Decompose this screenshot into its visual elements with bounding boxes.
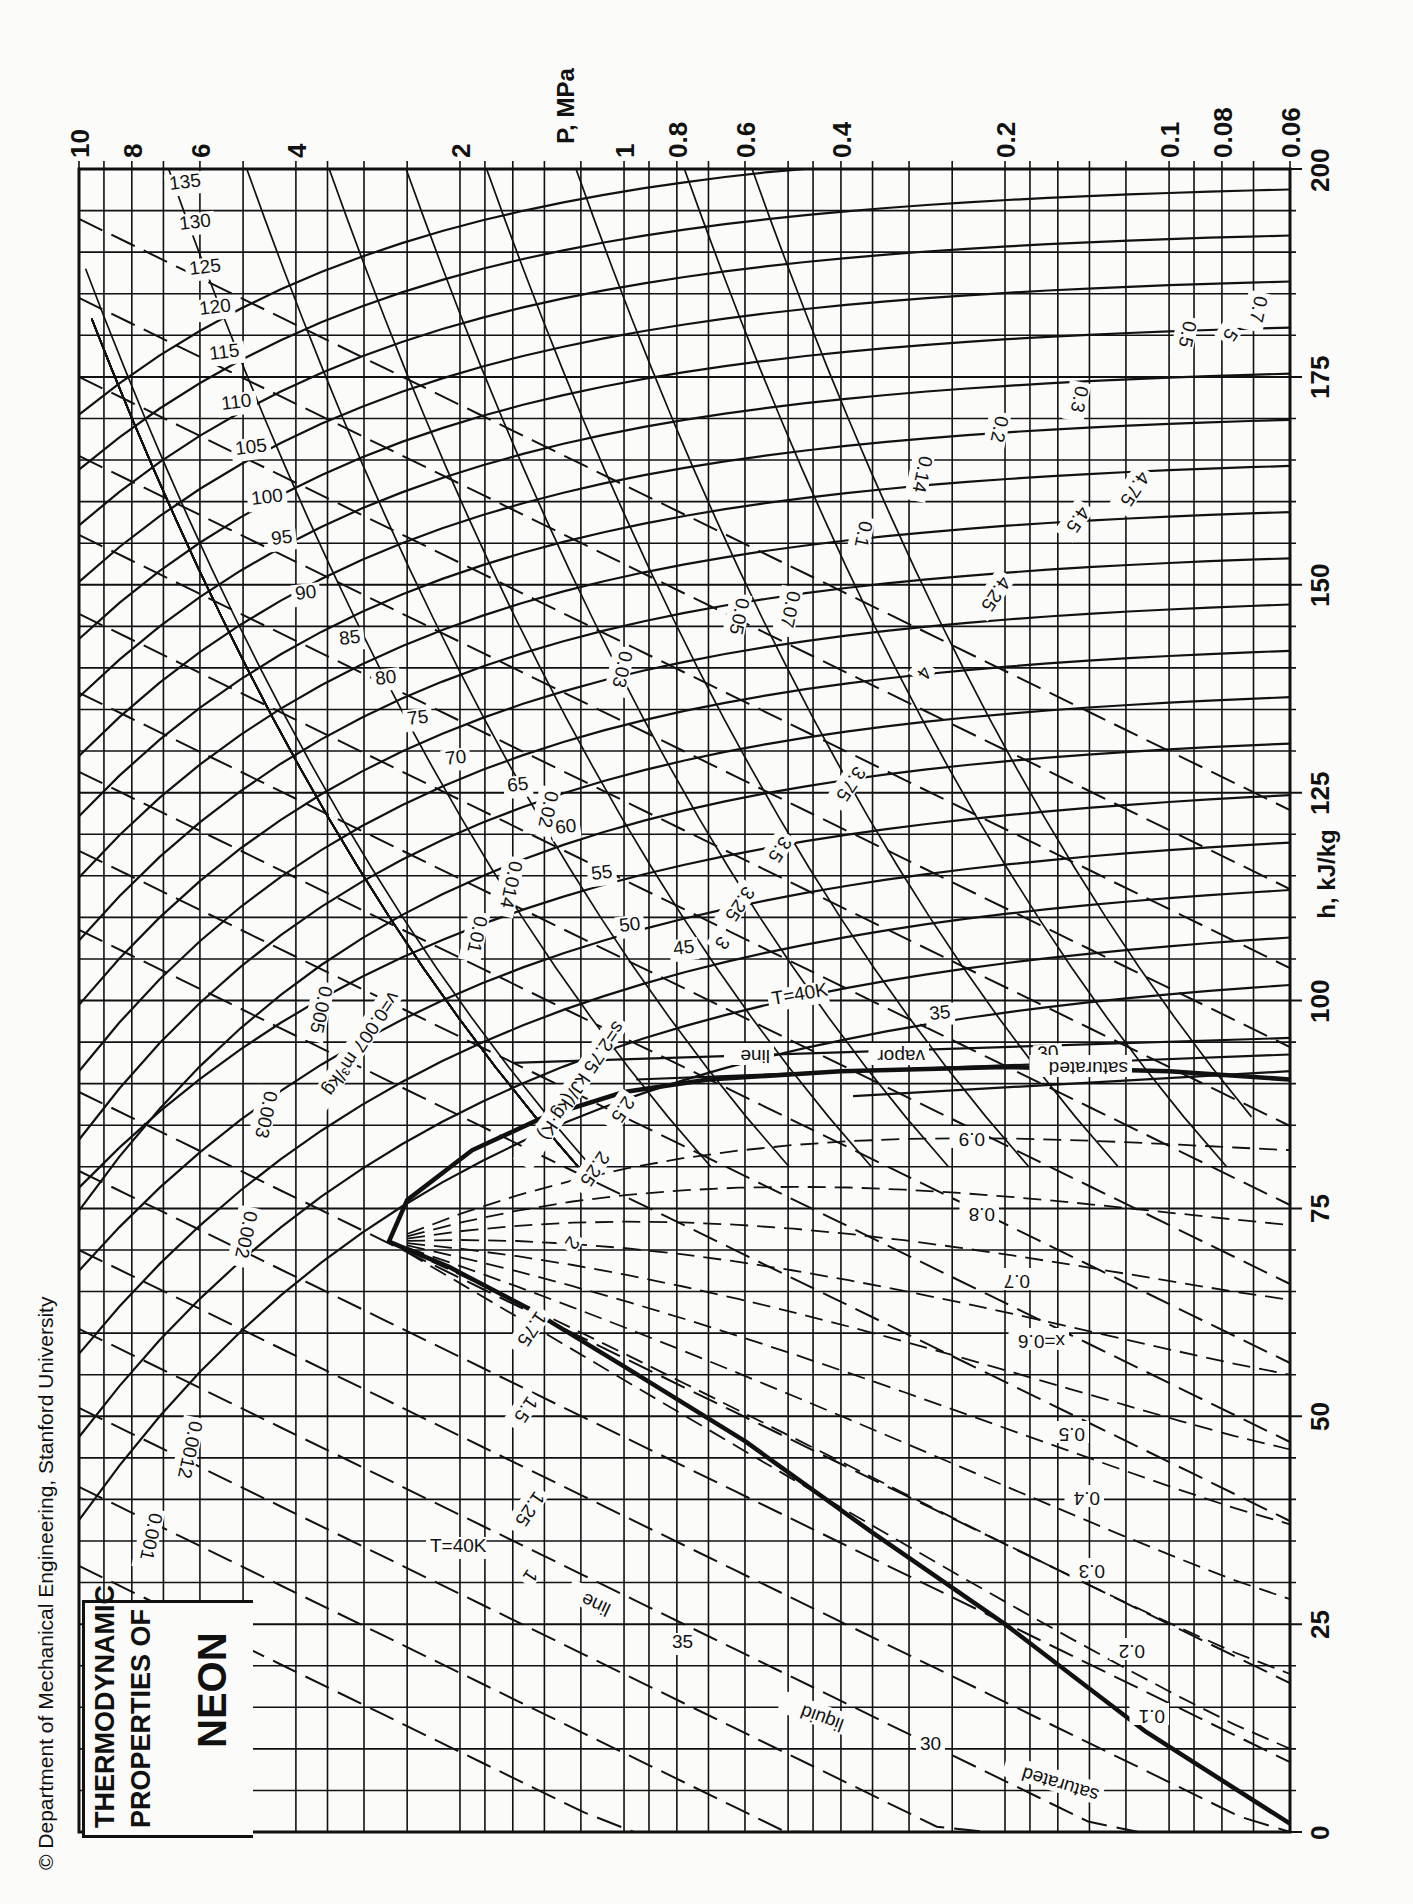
isentrope-1: [79, 1566, 1290, 1832]
isotherm-label-45: 45: [672, 936, 696, 959]
isotherm-label-120: 120: [198, 294, 232, 319]
p-tick-label: 0.08: [1208, 107, 1239, 158]
quality-line-0.3: [407, 1248, 1290, 1600]
curve-labels: 1351301251201151101051009590858075706560…: [131, 169, 1271, 1806]
isotherm-label-130: 130: [178, 209, 212, 234]
isentrope-2.5: [79, 1092, 1290, 1683]
isentrope-1.5: [79, 1408, 1290, 1832]
isentrope-3.5: [79, 693, 1290, 1284]
isotherm-label-35-vapor: 35: [928, 1001, 951, 1024]
isotherm-label-95: 95: [270, 526, 294, 549]
p-tick-label: 0.1: [1155, 122, 1186, 158]
isochore-label-0.014: 0.014: [496, 859, 527, 910]
isotherm-label-90: 90: [294, 581, 318, 604]
isotherm-label-85: 85: [338, 626, 362, 649]
isotherm-90: [79, 558, 1290, 940]
quality-line-0.4: [407, 1245, 1290, 1524]
title-line1: THERMODYNAMIC: [90, 1585, 121, 1828]
isotherm-label-40-liquid: T=40K: [430, 1535, 487, 1556]
isotherm-label-30-liquid: 30: [920, 1733, 941, 1754]
isotherm-label-70: 70: [444, 746, 468, 769]
h-tick-label: 200: [1305, 148, 1336, 191]
pressure-axis-title: P, MPa: [552, 68, 580, 144]
isotherm-label-105: 105: [234, 434, 268, 459]
isotherm-label-35-liquid: 35: [672, 1631, 693, 1652]
copyright-text: © Department of Mechanical Engineering, …: [34, 1297, 58, 1870]
isotherm-label-125: 125: [188, 254, 222, 279]
sat-vapor-label-2: vapor: [877, 1046, 925, 1067]
quality-label-0.1: 0.1: [1139, 1706, 1165, 1727]
quality-label-0.2: 0.2: [1119, 1641, 1145, 1662]
isotherm-label-110: 110: [220, 389, 253, 414]
p-tick-label: 6: [186, 144, 217, 158]
quality-label-0.5: 0.5: [1059, 1424, 1085, 1445]
isentrope-4.75: [79, 298, 1290, 889]
p-tick-label: 0.8: [663, 122, 694, 158]
isotherm-label-65: 65: [506, 773, 530, 796]
isentrope-4.5: [79, 377, 1290, 968]
p-tick-label: 0.06: [1276, 107, 1307, 158]
isotherm-label-135: 135: [168, 169, 202, 194]
h-tick-label: 75: [1305, 1194, 1336, 1223]
isochore-label-0.001: 0.001: [136, 1511, 166, 1562]
enthalpy-axis-title: h, kJ/kg: [1313, 829, 1341, 918]
isochore-label-0.003: 0.003: [251, 1089, 281, 1140]
h-tick-label: 150: [1305, 564, 1336, 607]
isochore-0.7: [752, 169, 1251, 1117]
quality-label-0.4: 0.4: [1073, 1488, 1100, 1509]
h-tick-label: 175: [1305, 356, 1336, 399]
quality-label-0.8: 0.8: [969, 1204, 995, 1225]
isotherm-115: [79, 328, 1290, 639]
isotherm-label-100: 100: [250, 484, 284, 509]
isotherm-label-55: 55: [590, 861, 614, 884]
p-tick-label: 0.4: [827, 122, 858, 158]
p-tick-label: 10: [65, 129, 96, 158]
isentrope-2.25: [79, 1171, 1290, 1762]
isochore-0.03: [86, 269, 592, 1167]
quality-label-0.9: 0.9: [959, 1129, 985, 1150]
quality-label-0.7: 0.7: [1004, 1271, 1030, 1292]
p-tick-label: 0.2: [991, 122, 1022, 158]
isochore-label-0.002: 0.002: [231, 1209, 261, 1260]
title-line2: PROPERTIES OF: [126, 1609, 157, 1828]
p-tick-label: 1: [610, 144, 641, 158]
quality-line-0.8: [407, 1187, 1290, 1237]
p-tick-label: 4: [282, 144, 313, 158]
h-tick-label: 125: [1305, 772, 1336, 815]
p-tick-label: 8: [118, 144, 149, 158]
isochore-label-0.005: 0.005: [306, 984, 336, 1035]
quality-line-0.7: [407, 1222, 1290, 1300]
isotherm-label-75: 75: [406, 706, 430, 729]
isotherm-120: [79, 282, 1290, 582]
isotherm-label-80: 80: [374, 666, 398, 689]
h-tick-label: 50: [1305, 1402, 1336, 1431]
quality-label-0.6: x=0.6: [1018, 1331, 1065, 1352]
isotherm-110: [79, 374, 1290, 697]
p-tick-label: 2: [446, 144, 477, 158]
p-tick-label: 0.6: [731, 122, 762, 158]
sat-vapor-label-3: line: [740, 1046, 770, 1067]
h-tick-label: 100: [1305, 980, 1336, 1023]
isotherm-label-115: 115: [208, 339, 241, 364]
h-tick-label: 25: [1305, 1610, 1336, 1639]
quality-label-0.3: 0.3: [1079, 1561, 1105, 1582]
title-substance: NEON: [190, 1632, 235, 1748]
sat-vapor-label-1: saturated: [1049, 1058, 1128, 1079]
h-tick-label: 0: [1305, 1825, 1336, 1839]
isotherm-label-50: 50: [618, 913, 642, 936]
